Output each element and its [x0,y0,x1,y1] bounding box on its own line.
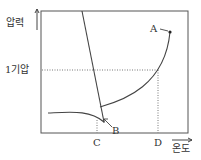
melting-curve [82,11,104,122]
point-a-label: A [149,23,158,34]
critical-point-a [168,30,171,33]
x-axis-label: 온도 [172,143,190,154]
c-tick-label: C [93,137,101,148]
phase-diagram: 압력 1기압 A B C D 온도 [0,0,201,160]
b-pointer-arrow-icon [104,119,112,127]
y-axis-label: 압력 [6,16,24,28]
a-pointer-arrow-icon [160,29,168,31]
y-axis-arrow-icon [35,9,39,30]
d-tick-label: D [154,137,162,148]
sublimation-curve [48,112,104,122]
plot-frame [41,11,188,133]
point-b-label: B [112,125,119,136]
one-atm-label: 1기압 [5,63,29,75]
x-axis-arrow-icon [172,138,192,142]
